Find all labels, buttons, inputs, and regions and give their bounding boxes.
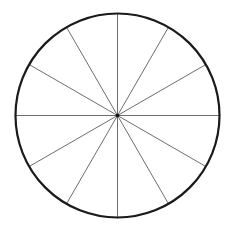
sector-circle-diagram <box>0 0 234 226</box>
center-point <box>116 114 120 118</box>
